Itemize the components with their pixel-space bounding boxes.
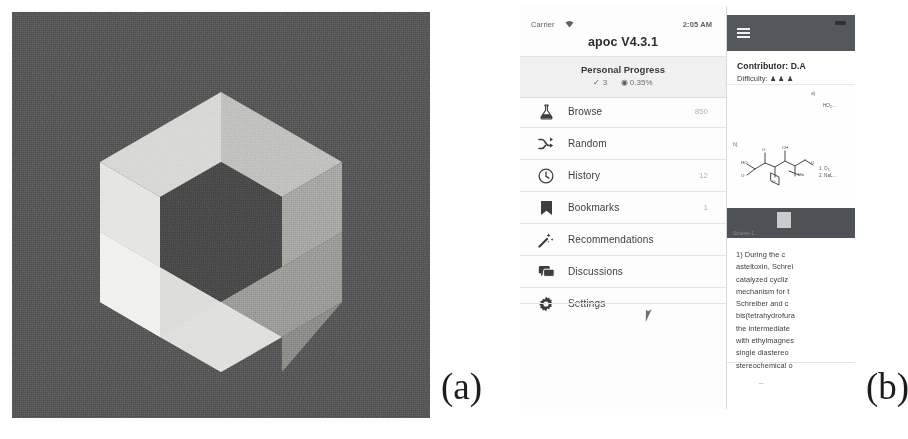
reaction-scheme: a) b) HO₂… 1. O₃ 2. NaL… HOO OCH OMe [727,84,855,227]
footer-divider [727,362,855,363]
sidebar-item-label: Recommendations [568,224,654,255]
sidebar-item-history[interactable]: History 12 [520,160,726,192]
scheme-thumbnail [777,212,791,228]
sidebar-item-count: 850 [695,96,708,127]
problem-body-text: 1) During the c asteltoxin, Schrei catal… [736,249,855,372]
shuffle-icon [535,128,557,159]
flask-icon [535,96,557,127]
svg-text:O: O [741,173,745,178]
scheme-image-band: Scheme 1. [727,208,855,238]
hexagonal-ring-logo [12,12,430,418]
check-icon: ✓ [593,78,600,87]
solved-count: 3 [603,78,607,87]
toolbar-pill [835,21,846,25]
progress-title: Personal Progress [520,64,726,75]
sidebar-item-discussions[interactable]: Discussions [520,256,726,288]
body-line: bis(tetrahydrofura [736,310,855,322]
figure-panel-b: Carrier 2:05 AM apoc V4.3.1 Personal Pro… [520,6,855,409]
sidebar-item-bookmarks[interactable]: Bookmarks 1 [520,192,726,224]
svg-text:O: O [762,147,766,152]
sidebar-item-label: Discussions [568,256,623,287]
body-line: asteltoxin, Schrei [736,261,855,273]
body-line: 1) During the c [736,249,855,261]
problem-meta: Contributor: D.A Difficulty: ♟♟♟ [737,61,855,83]
sidebar-item-count: 1 [704,192,708,223]
carrier-label: Carrier [531,20,555,29]
sidebar-item-browse[interactable]: Browse 850 [520,96,726,128]
svg-text:Me: Me [798,172,805,177]
scheme-reagent-note: HO₂… [823,103,836,110]
panel-a-caption: (a) [441,368,482,405]
body-line: single diastereo [736,347,855,359]
svg-text:O: O [772,179,776,184]
svg-text:CH: CH [782,145,788,150]
body-line: mechanism for t [736,286,855,298]
scheme-conditions: 1. O₃ 2. NaL… [819,165,837,180]
globe-icon: ◉ [621,78,628,87]
content-pane: Contributor: D.A Difficulty: ♟♟♟ a) b) H… [726,6,855,409]
mouse-pointer-icon [642,308,655,322]
personal-progress-card[interactable]: Personal Progress ✓ 3 ◉ 0.35% [520,56,726,98]
clock-label: 2:05 AM [683,20,712,29]
discussions-icon [535,256,557,287]
svg-text:HO: HO [741,160,748,165]
progress-stats: ✓ 3 ◉ 0.35% [520,78,726,87]
app-title: apoc V4.3.1 [520,35,726,49]
clock-icon [535,160,557,191]
scheme-label-b: b) [733,141,737,147]
content-top-bar [727,15,855,51]
sidebar-item-label: Bookmarks [568,192,619,223]
difficulty-stars: ♟♟♟ [770,75,796,82]
status-bar: Carrier 2:05 AM [520,20,726,31]
scheme-label-a: a) [811,90,815,96]
body-line: with ethylmagnes [736,335,855,347]
sidebar-item-label: Browse [568,96,602,127]
navigation-drawer: Carrier 2:05 AM apoc V4.3.1 Personal Pro… [520,6,726,409]
figure-panel-a [12,12,430,418]
difficulty-row: Difficulty: ♟♟♟ [737,74,855,83]
bookmark-icon [535,192,557,223]
panel-b-caption: (b) [866,368,908,405]
hamburger-icon[interactable] [737,28,750,38]
body-line: the intermediate [736,323,855,335]
drawer-divider [520,303,726,304]
sidebar-item-recommendations[interactable]: Recommendations [520,224,726,256]
footer-mark: – [759,378,763,387]
drawer-menu: Browse 850 Random History 12 [520,96,726,319]
sidebar-item-label: Random [568,128,607,159]
sidebar-item-random[interactable]: Random [520,128,726,160]
sidebar-item-label: History [568,160,600,191]
magic-wand-icon [535,224,557,255]
wifi-icon [565,21,574,30]
chemical-structure-icon: HOO OCH OMe O [741,143,819,195]
scheme-caption: Scheme 1. [733,231,755,236]
difficulty-label: Difficulty: [737,74,768,83]
sidebar-item-count: 12 [699,160,708,191]
progress-percent: 0.35% [630,78,653,87]
body-line: Schreiber and c [736,298,855,310]
body-line: catalyzed cycliz [736,274,855,286]
contributor-label: Contributor: D.A [737,61,855,71]
svg-text:O: O [811,160,815,165]
